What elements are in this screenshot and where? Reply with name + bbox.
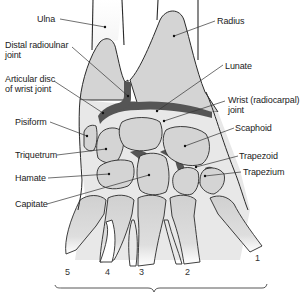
label-distal-radioulnar-joint-line2: joint [5,50,68,60]
metacarpal-number-3: 3 [139,267,144,277]
metacarpal-number-2: 2 [185,267,190,277]
label-capitate: Capitate [15,199,48,209]
label-pisiform: Pisiform [15,117,47,127]
label-articular-disc: Articular disc of wrist joint [5,74,55,94]
metacarpal-number-4: 4 [105,267,110,277]
label-wrist-joint-line2: joint [228,105,299,115]
label-trapezium: Trapezium [243,167,284,177]
metacarpal-number-1: 1 [255,253,260,263]
label-distal-radioulnar-joint: Distal radioulnar joint [5,40,68,60]
label-distal-radioulnar-joint-line1: Distal radioulnar [5,40,68,50]
label-radius: Radius [217,16,244,26]
label-trapezoid: Trapezoid [239,151,278,161]
capitate-bone [137,153,169,195]
metacarpals-brace [55,284,267,292]
label-lunate: Lunate [225,61,252,71]
metacarpal-number-5: 5 [65,267,70,277]
trapezoid-bone [173,168,199,195]
ulna-bone [80,0,128,100]
lunate-bone [119,118,162,151]
label-triquetrum: Triquetrum [15,150,57,160]
pisiform-bone [84,125,97,151]
label-hamate: Hamate [15,173,46,183]
label-articular-disc-line2: of wrist joint [5,84,55,94]
label-wrist-joint: Wrist (radiocarpal) joint [228,95,299,115]
label-articular-disc-line1: Articular disc [5,74,55,84]
label-wrist-joint-line1: Wrist (radiocarpal) [228,95,299,105]
radius-bone [130,0,218,112]
label-ulna: Ulna [37,14,55,24]
label-scaphoid: Scaphoid [235,123,272,133]
